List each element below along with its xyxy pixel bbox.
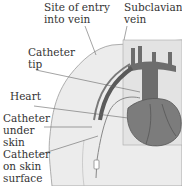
label-site-of-entry: Site of entry into vein [44, 1, 110, 25]
label-subclavian-vein: Subclavian vein [124, 1, 182, 25]
label-catheter-under-skin: Catheter under skin [3, 112, 50, 148]
label-catheter-on-skin: Catheter on skin surface [3, 148, 50, 184]
label-heart: Heart [10, 90, 41, 102]
catheter-hub [94, 160, 99, 169]
label-catheter-tip: Catheter tip [28, 46, 75, 70]
